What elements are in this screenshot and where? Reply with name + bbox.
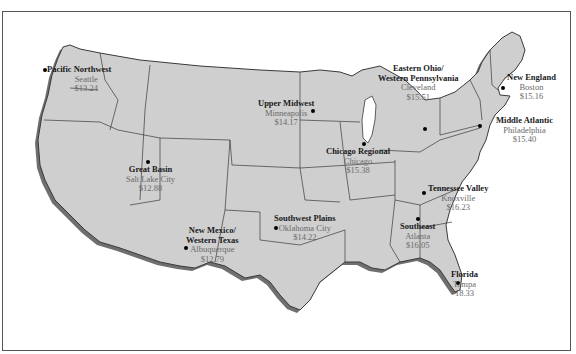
city-dot-cleveland [423, 127, 427, 131]
region-label-tennessee-valley: Tennessee Valley Knoxville $16.23 [428, 184, 488, 213]
wage-value: $15.40 [496, 135, 553, 145]
wage-value: 18.33 [451, 289, 478, 299]
region-label-new-mexico: New Mexico/ Western Texas Albuquerque $1… [186, 226, 239, 264]
region-label-florida: Florida Tampa 18.33 [451, 270, 478, 299]
region-label-middle-atlantic: Middle Atlantic Philadelphia $15.40 [496, 116, 553, 145]
wage-value: $15.51 [378, 93, 459, 103]
city-dot-philadelphia [478, 124, 482, 128]
region-label-pacific-northwest: Pacific Northwest Seattle $13.24 [47, 65, 111, 94]
wage-value: $16.23 [428, 203, 488, 213]
wage-value: $15.16 [507, 92, 556, 102]
wage-value: $15.38 [326, 166, 390, 176]
region-label-eastern-ohio: Eastern Ohio/ Western Pennsylvania Cleve… [378, 64, 459, 102]
wage-value: $12.88 [126, 184, 175, 194]
wage-value: $12.79 [186, 255, 239, 265]
wage-value: $14.22 [274, 233, 336, 243]
region-label-upper-midwest: Upper Midwest Minneapolis $14.17 [258, 99, 314, 128]
region-label-new-england: New England Boston $15.16 [507, 73, 556, 102]
region-label-southwest-plains: Southwest Plains Oklahoma City $14.22 [274, 214, 336, 243]
region-label-chicago-regional: Chicago Regional Chicago $15.38 [326, 147, 390, 176]
wage-value: $14.17 [258, 118, 314, 128]
wage-value: $13.24 [47, 84, 111, 94]
city-dot-knoxville [422, 191, 426, 195]
city-dot-boston [501, 86, 505, 90]
region-label-southeast: Southeast Atlanta $16.05 [400, 222, 435, 251]
region-label-great-basin: Great Basin Salt Lake City $12.88 [126, 165, 175, 194]
wage-value: $16.05 [400, 241, 435, 251]
us-map [0, 0, 576, 354]
